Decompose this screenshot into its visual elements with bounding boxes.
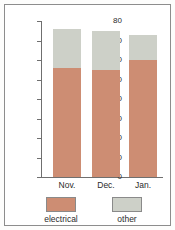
figure-border: 01020304050607080 Nov.Dec.Jan. electrica… (4, 4, 171, 226)
y-tick-60 (37, 60, 42, 61)
legend-item-other: other (98, 197, 156, 224)
legend-label-other: other (98, 215, 156, 224)
x-axis-label-jan: Jan. (123, 181, 163, 190)
legend-item-electrical: electrical (32, 197, 90, 224)
chart-legend: electrical other (5, 197, 175, 230)
y-tick-20 (37, 138, 42, 139)
y-tick-10 (37, 158, 42, 159)
legend-swatch-other (112, 197, 142, 212)
x-axis-label-nov: Nov. (47, 181, 87, 190)
y-tick-50 (37, 80, 42, 81)
bar-segment-electrical (53, 68, 81, 177)
y-tick-40 (37, 99, 42, 100)
legend-swatch-electrical (46, 197, 76, 212)
y-tick-0 (37, 177, 42, 178)
bar-segment-electrical (92, 70, 120, 177)
bar-segment-other (129, 35, 157, 60)
y-tick-70 (37, 41, 42, 42)
legend-label-electrical: electrical (32, 215, 90, 224)
bar-dec (92, 21, 120, 177)
y-tick-80 (37, 21, 42, 22)
stacked-bar-chart-figure: 01020304050607080 Nov.Dec.Jan. electrica… (0, 0, 175, 230)
bar-segment-electrical (129, 60, 157, 177)
y-tick-30 (37, 119, 42, 120)
plot-area: 01020304050607080 (41, 21, 163, 177)
bar-segment-other (53, 29, 81, 68)
x-axis-label-dec: Dec. (86, 181, 126, 190)
bar-nov (53, 21, 81, 177)
bar-jan (129, 21, 157, 177)
bar-segment-other (92, 31, 120, 70)
